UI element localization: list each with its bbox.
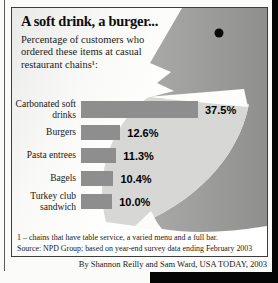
bar-row: Carbonated soft drinks37.5% bbox=[14, 98, 264, 121]
chart-subtitle: Percentage of customers who ordered thes… bbox=[21, 34, 173, 71]
scan-edge-right bbox=[272, 0, 278, 283]
bar bbox=[81, 194, 112, 209]
infographic-box: A soft drink, a burger... Percentage of … bbox=[11, 7, 268, 257]
bar-label: Turkey club sandwich bbox=[14, 191, 81, 211]
bar-row: Burgers12.6% bbox=[14, 121, 264, 144]
bar-row: Pasta entrees11.3% bbox=[14, 144, 264, 167]
bar-value: 11.3% bbox=[123, 150, 154, 162]
bar-value: 12.6% bbox=[127, 127, 158, 139]
bar bbox=[81, 148, 116, 163]
bar-label: Carbonated soft drinks bbox=[14, 99, 81, 119]
source-line: Source: NPD Group; based on year-end sur… bbox=[17, 244, 252, 253]
bird-eye-icon bbox=[215, 29, 224, 38]
bar-label: Pasta entrees bbox=[14, 150, 81, 160]
scan-edge-bottom bbox=[150, 272, 278, 283]
bar-row: Turkey club sandwich10.0% bbox=[14, 190, 264, 213]
newspaper-column-rule bbox=[4, 0, 5, 271]
bar-value: 10.4% bbox=[120, 173, 151, 185]
bar-chart: Carbonated soft drinks37.5%Burgers12.6%P… bbox=[14, 98, 264, 213]
bar-label: Burgers bbox=[14, 127, 81, 137]
bar-row: Bagels10.4% bbox=[14, 167, 264, 190]
bar-label: Bagels bbox=[14, 173, 81, 183]
bar-value: 37.5% bbox=[205, 104, 236, 116]
byline: By Shannon Reilly and Sam Ward, USA TODA… bbox=[79, 259, 267, 269]
bar-value: 10.0% bbox=[119, 196, 150, 208]
footnote: 1 – chains that have table service, a va… bbox=[17, 233, 218, 242]
bar bbox=[81, 125, 120, 140]
bar bbox=[81, 171, 113, 186]
bar bbox=[81, 101, 198, 118]
chart-title: A soft drink, a burger... bbox=[21, 13, 158, 30]
